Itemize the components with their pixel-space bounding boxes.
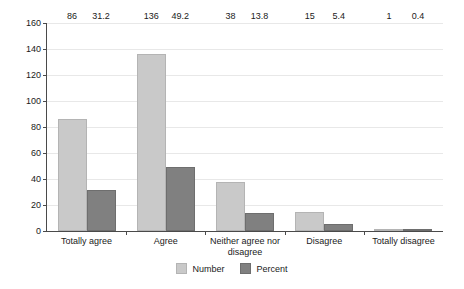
x-axis-category-label: Agree	[126, 236, 205, 258]
bar-percent[interactable]: 49.2	[166, 167, 195, 231]
bar-column: 136	[137, 23, 166, 231]
bar-column: 1	[374, 23, 403, 231]
legend-swatch-icon	[240, 263, 251, 274]
x-axis-separator-tick	[126, 231, 127, 235]
bar-group-bars: 10.4	[364, 23, 443, 231]
x-axis-baseline	[47, 231, 443, 232]
bar-value-label: 38	[225, 11, 235, 21]
x-axis-category-labels: Totally agreeAgreeNeither agree nor disa…	[47, 236, 443, 258]
bar-column: 49.2	[166, 23, 195, 231]
y-axis-tick-label: 60	[31, 149, 41, 158]
bar-group: 8631.2	[47, 23, 126, 231]
bar-value-label: 86	[67, 11, 77, 21]
bar-column: 31.2	[87, 23, 116, 231]
bar-group-bars: 155.4	[285, 23, 364, 231]
y-axis-tick-label: 80	[31, 123, 41, 132]
legend-label: Number	[192, 264, 224, 274]
bar-percent[interactable]: 13.8	[245, 213, 274, 231]
bar-group-bars: 8631.2	[47, 23, 126, 231]
bar-number[interactable]: 15	[295, 212, 324, 232]
x-axis-category-label: Disagree	[285, 236, 364, 258]
legend-label: Percent	[256, 264, 287, 274]
bar-value-label: 13.8	[251, 11, 269, 21]
bar-number[interactable]: 1	[374, 229, 403, 231]
bar-percent[interactable]: 5.4	[324, 224, 353, 231]
legend-item-percent[interactable]: Percent	[240, 263, 287, 274]
bar-group-bars: 3813.8	[205, 23, 284, 231]
bar-group-bars: 13649.2	[126, 23, 205, 231]
bar-group: 10.4	[364, 23, 443, 231]
y-axis-tick-label: 40	[31, 175, 41, 184]
bar-value-label: 136	[144, 11, 159, 21]
bar-column: 38	[216, 23, 245, 231]
bar-value-label: 31.2	[92, 11, 110, 21]
bar-column: 86	[58, 23, 87, 231]
bar-value-label: 15	[305, 11, 315, 21]
bar-percent[interactable]: 31.2	[87, 190, 116, 231]
bar-group: 13649.2	[126, 23, 205, 231]
bar-column: 5.4	[324, 23, 353, 231]
bar-column: 0.4	[403, 23, 432, 231]
bar-group: 3813.8	[205, 23, 284, 231]
y-axis-tick-label: 120	[26, 71, 41, 80]
bar-value-label: 1	[386, 11, 391, 21]
y-axis-tick-label: 20	[31, 201, 41, 210]
x-axis-separator-tick	[205, 231, 206, 235]
bar-value-label: 5.4	[332, 11, 345, 21]
bar-number[interactable]: 136	[137, 54, 166, 231]
y-axis-tick-label: 140	[26, 45, 41, 54]
bar-percent[interactable]: 0.4	[403, 229, 432, 231]
bar-groups: 8631.213649.23813.8155.410.4	[47, 23, 443, 231]
y-axis-tick-label: 0	[36, 227, 41, 236]
legend-item-number[interactable]: Number	[176, 263, 224, 274]
bar-column: 13.8	[245, 23, 274, 231]
plot-area: 8631.213649.23813.8155.410.4	[47, 23, 443, 231]
x-axis-category-label: Totally agree	[47, 236, 126, 258]
y-axis-tick-label: 100	[26, 97, 41, 106]
bar-group: 155.4	[285, 23, 364, 231]
bar-chart: 020406080100120140160 8631.213649.23813.…	[0, 0, 464, 289]
x-axis-separator-tick	[364, 231, 365, 235]
x-axis-separator-tick	[285, 231, 286, 235]
y-axis-tick-label: 160	[26, 19, 41, 28]
bar-column: 15	[295, 23, 324, 231]
x-axis-category-label: Neither agree nor disagree	[205, 236, 284, 258]
x-axis-category-label: Totally disagree	[364, 236, 443, 258]
bar-value-label: 49.2	[172, 11, 190, 21]
bar-number[interactable]: 86	[58, 119, 87, 231]
legend-swatch-icon	[176, 263, 187, 274]
chart-legend: NumberPercent	[0, 263, 464, 274]
bar-number[interactable]: 38	[216, 182, 245, 231]
bar-value-label: 0.4	[412, 11, 425, 21]
